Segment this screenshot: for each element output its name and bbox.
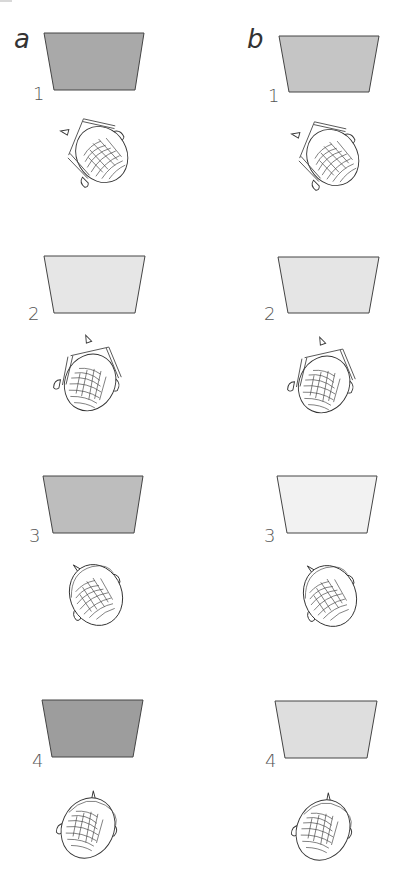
head-icon-a2	[49, 332, 133, 421]
screen-a4	[42, 700, 143, 757]
screen-a3	[43, 476, 143, 533]
panel-b1	[279, 36, 379, 199]
panel-b2	[278, 257, 379, 423]
screen-b3	[277, 476, 377, 533]
head-icon-a1	[54, 105, 141, 196]
panel-a3	[43, 476, 143, 634]
head-icon-b4	[285, 786, 364, 870]
head-icon-b3	[291, 553, 366, 635]
screen-b2	[278, 257, 379, 313]
head-icon-a3	[57, 552, 132, 634]
panel-a1	[44, 33, 144, 196]
head-icon-b1	[285, 108, 372, 199]
panel-a2	[44, 256, 145, 421]
head-icon-b2	[283, 334, 367, 423]
screen-a1	[44, 33, 144, 90]
screen-a2	[44, 256, 145, 313]
panel-b4	[275, 701, 377, 870]
panel-a4	[42, 700, 143, 868]
screen-b4	[275, 701, 377, 758]
figure-canvas	[0, 0, 399, 879]
head-icon-a4	[50, 784, 129, 868]
screen-b1	[279, 36, 379, 92]
panel-b3	[277, 476, 377, 635]
